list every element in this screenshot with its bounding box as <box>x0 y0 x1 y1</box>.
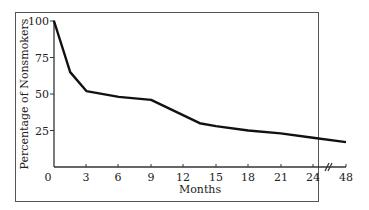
y-tick-label: 100 <box>28 15 49 28</box>
y-axis-title: Percentage of Nonsmokers <box>18 18 31 169</box>
x-tick-label: 6 <box>115 171 122 184</box>
x-tick-label: 9 <box>148 171 155 184</box>
x-tick-label: 21 <box>274 171 288 184</box>
x-tick-label: 18 <box>241 171 255 184</box>
x-tick-label: 0 <box>45 171 52 184</box>
x-axis-title: Months <box>179 183 221 196</box>
y-ticks: 255075100 <box>28 15 54 138</box>
x-tick-label: 3 <box>83 171 90 184</box>
y-tick-label: 75 <box>35 52 49 65</box>
y-tick-label: 50 <box>35 88 49 101</box>
x-tick-label: 48 <box>339 171 353 184</box>
x-tick-label: 24 <box>306 171 320 184</box>
line-chart: 255075100 0369121518212448 Months Percen… <box>0 0 369 210</box>
data-line <box>54 21 346 142</box>
y-tick-label: 25 <box>35 125 49 138</box>
